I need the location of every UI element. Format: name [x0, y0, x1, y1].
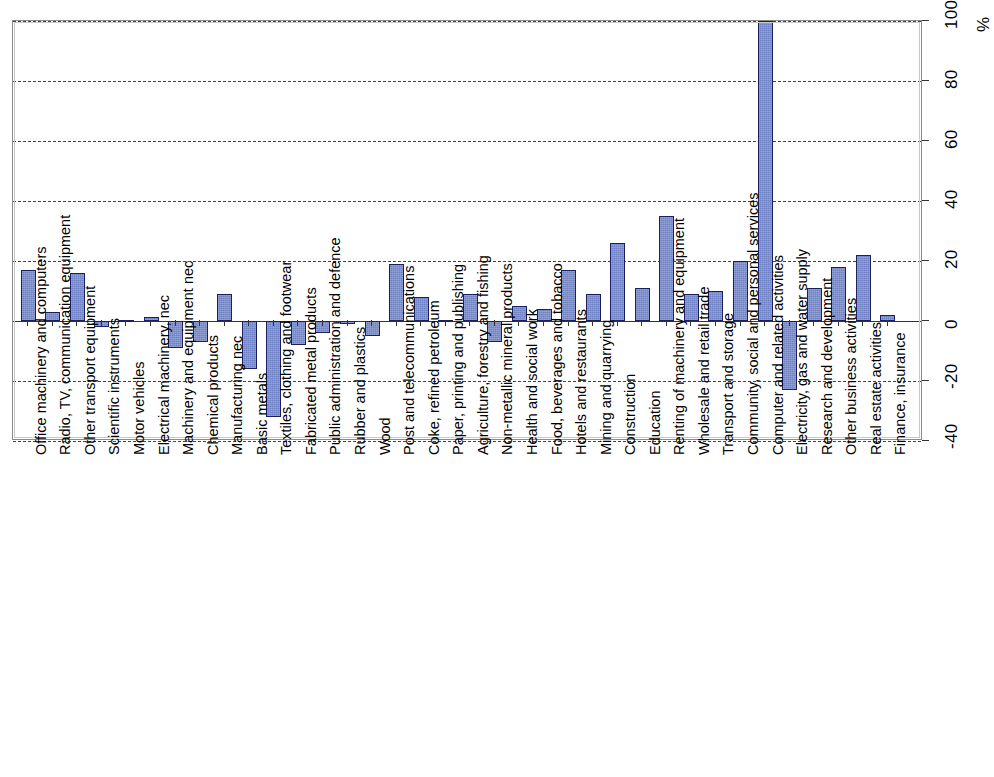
x-axis-category-label: Non-metallic mineral products [499, 263, 515, 455]
x-axis-category-label: Electricity, gas and water supply [794, 249, 810, 455]
x-axis-category-label: Health and social work [524, 309, 540, 455]
x-axis-category-label: Renting of machinery and equipment [671, 218, 687, 455]
x-axis-category-label: Wood [377, 417, 393, 455]
x-axis-category-label: Hotels and restaurants [573, 309, 589, 455]
x-axis-category-label: Coke, refined petroleum [426, 300, 442, 455]
x-axis-category-label: Fabricated metal products [303, 287, 319, 455]
x-axis-category-label: Other business activities [843, 298, 859, 455]
x-axis-category-label: Machinery and equipment nec [180, 261, 196, 455]
x-axis-category-label: Paper, printing and publishing [450, 264, 466, 455]
x-axis-category-label: Wholesale and retail trade [696, 287, 712, 455]
x-axis-category-label: Rubber and plastics [352, 327, 368, 455]
x-axis-category-label: Post and telecommunications [401, 266, 417, 455]
x-axis-category-label: Basic metals [254, 373, 270, 455]
x-axis-category-label: Agriculture, forestry and fishing [475, 255, 491, 455]
x-axis-category-label: Transport and storage [720, 313, 736, 455]
x-axis-category-label: Scientific instruments [106, 318, 122, 455]
x-axis-category-label: Education [647, 391, 663, 456]
x-axis-category-label: Other transport equipment [82, 286, 98, 455]
x-axis-category-label: Mining and quarrying [598, 320, 614, 455]
x-axis-category-label: Public administration and defence [327, 237, 343, 455]
x-axis-category-label: Textiles, clothing and footwear [278, 261, 294, 455]
x-axis-category-label: Research and development [819, 278, 835, 455]
x-axis-category-label: Community, social and personal services [745, 193, 761, 455]
x-axis-category-label: Food, beverages and tobacco [549, 263, 565, 455]
x-axis-category-label: Chemical products [205, 335, 221, 455]
x-axis-category-label: Construction [622, 374, 638, 455]
x-axis-category-label: Real estate activities [868, 322, 884, 455]
x-axis-category-label: Motor vehicles [131, 362, 147, 455]
x-axis-category-label: Office machinery and computers [33, 247, 49, 455]
x-axis-category-label: Electrical machinery, nec [156, 295, 172, 455]
x-axis-category-label: Manufacturing nec [229, 336, 245, 455]
x-axis-category-label: Radio, TV, communication equipment [57, 215, 73, 455]
x-axis-category-label: Computer and related activities [770, 255, 786, 455]
x-axis-category-label: Finance, insurance [892, 332, 908, 455]
